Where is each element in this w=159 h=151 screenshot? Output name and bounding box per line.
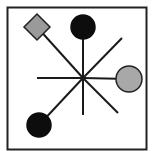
spoke-northeast [83,38,122,78]
spokes-group [37,27,129,125]
black-circle-bottom-left [27,113,51,137]
radial-diagram [0,0,159,151]
black-circle-top [71,15,95,39]
spoke-southeast [83,78,118,113]
gray-circle-right [116,66,142,92]
